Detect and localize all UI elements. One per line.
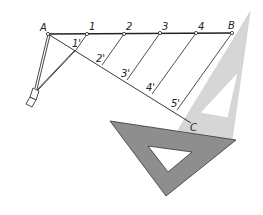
label-4: 4 bbox=[198, 21, 204, 32]
label-a: A bbox=[39, 22, 47, 33]
label-3-prime: 3' bbox=[121, 68, 130, 79]
line-ac bbox=[48, 34, 191, 123]
label-1: 1 bbox=[89, 21, 95, 32]
light-set-square bbox=[178, 12, 250, 140]
label-b: B bbox=[228, 20, 235, 31]
diagram-canvas: A B C 1 2 3 4 1' 2' 3' 4' 5' bbox=[0, 0, 263, 215]
compass-icon bbox=[26, 34, 76, 107]
label-2: 2 bbox=[126, 21, 132, 32]
label-2-prime: 2' bbox=[96, 53, 105, 64]
label-4-prime: 4' bbox=[146, 82, 155, 93]
label-1-prime: 1' bbox=[72, 38, 81, 49]
line-ab bbox=[48, 33, 232, 34]
label-5-prime: 5' bbox=[171, 98, 180, 109]
label-c: C bbox=[190, 122, 197, 133]
label-3: 3 bbox=[162, 21, 168, 32]
